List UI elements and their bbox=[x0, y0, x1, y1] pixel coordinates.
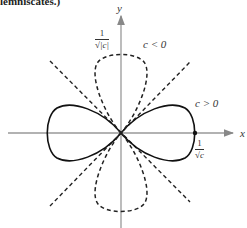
lemniscate-diagram: lemniscates.) y x c < 0 c > 0 1 √|c| 1 √… bbox=[0, 0, 247, 228]
c-negative-label: c < 0 bbox=[143, 39, 166, 50]
plot bbox=[0, 0, 247, 228]
x-axis-label: x bbox=[240, 128, 245, 139]
x-intercept-dot bbox=[193, 131, 197, 135]
right-intercept-fraction: 1 √c bbox=[195, 139, 204, 160]
top-intercept-fraction: 1 √|c| bbox=[95, 29, 109, 50]
c-positive-label: c > 0 bbox=[195, 98, 218, 109]
y-axis-label: y bbox=[117, 3, 122, 14]
